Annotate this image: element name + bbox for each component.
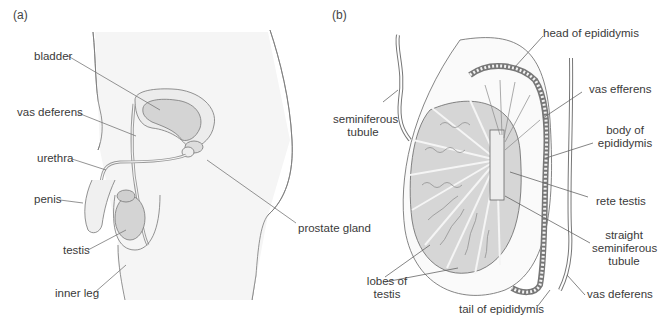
label-vas-deferens-b: vas deferens [587,288,653,301]
label-inner-leg: inner leg [55,287,99,300]
label-urethra: urethra [37,152,73,165]
panel-b-label: (b) [332,8,347,22]
label-vas-efferens: vas efferens [589,83,651,96]
label-head-of-epididymis: head of epididymis [543,27,639,40]
panel-a-label: (a) [13,8,28,22]
label-testis: testis [63,244,90,257]
label-tail-of-epididymis: tail of epididymis [459,303,544,316]
label-vas-deferens-a: vas deferens [17,106,83,119]
label-body-of-epididymis: body of epididymis [595,124,655,150]
panel-b-drawing [383,35,593,307]
label-seminiferous-tubule: seminiferous tubule [333,113,393,139]
panel-a-drawing [60,30,296,300]
label-lobes-of-testis: lobes of testis [362,275,412,301]
label-rete-testis: rete testis [596,195,646,208]
label-bladder: bladder [34,50,72,63]
label-straight-seminiferous-tubule: straight seminiferous tubule [592,229,656,268]
label-penis: penis [34,193,62,206]
anatomy-diagram [0,0,661,328]
label-prostate-gland: prostate gland [298,222,371,235]
